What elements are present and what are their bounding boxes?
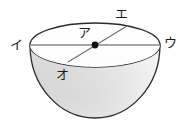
label-i: イ (10, 37, 23, 52)
hemisphere-diagram: ア イ ウ エ オ (0, 0, 189, 130)
label-e: エ (115, 6, 128, 21)
center-point-dot (92, 42, 99, 49)
label-u: ウ (164, 35, 177, 50)
label-o: オ (56, 67, 69, 82)
hemisphere-figure: ア イ ウ エ オ (0, 0, 189, 130)
label-a: ア (78, 25, 91, 40)
